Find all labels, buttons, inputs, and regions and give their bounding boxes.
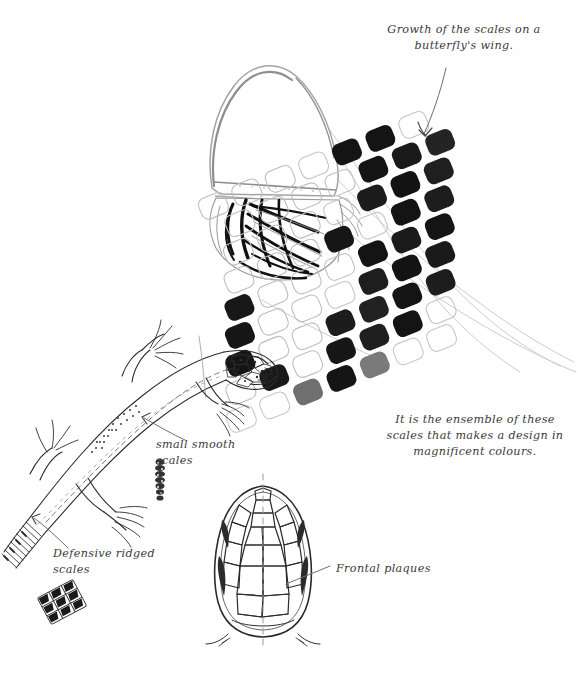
sketchbook-page: Growth of the scales on a butterfly's wi… <box>0 0 578 685</box>
leader-defensive-ridged <box>34 518 68 548</box>
leader-small-smooth <box>144 418 185 440</box>
leader-frontal-plaques <box>286 566 330 584</box>
leader-butterfly-title <box>424 68 446 134</box>
leader-lines-layer <box>0 0 578 685</box>
